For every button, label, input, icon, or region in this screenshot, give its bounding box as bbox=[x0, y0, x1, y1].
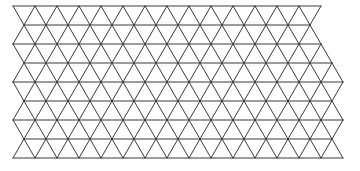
diagonal-line bbox=[200, 25, 211, 44]
diagonal-line bbox=[167, 101, 178, 120]
diagonal-line bbox=[35, 25, 46, 44]
diagonal-line bbox=[255, 101, 266, 120]
diagonal-line bbox=[255, 6, 266, 25]
diagonal-line bbox=[189, 139, 200, 158]
diagonal-line bbox=[57, 120, 68, 139]
diagonal-line bbox=[112, 82, 123, 101]
diagonal-line bbox=[101, 44, 112, 63]
diagonal-line bbox=[233, 82, 244, 101]
diagonal-line bbox=[101, 25, 112, 44]
diagonal-line bbox=[112, 63, 123, 82]
diagonal-line bbox=[233, 120, 244, 139]
diagonal-line bbox=[24, 120, 35, 139]
diagonal-line bbox=[189, 25, 200, 44]
diagonal-line bbox=[211, 101, 222, 120]
diagonal-line bbox=[123, 25, 134, 44]
diagonal-line bbox=[288, 25, 299, 44]
diagonal-line bbox=[288, 6, 299, 25]
diagonal-line bbox=[178, 25, 189, 44]
diagonal-line bbox=[112, 139, 123, 158]
diagonal-line bbox=[68, 25, 79, 44]
diagonal-line bbox=[277, 44, 288, 63]
diagonal-line bbox=[13, 139, 24, 158]
diagonal-line bbox=[90, 25, 101, 44]
diagonal-line bbox=[277, 101, 288, 120]
diagonal-line bbox=[178, 82, 189, 101]
diagonal-line bbox=[321, 44, 332, 63]
diagonal-line bbox=[189, 63, 200, 82]
diagonal-line bbox=[35, 63, 46, 82]
diagonal-line bbox=[145, 25, 156, 44]
diagonal-line bbox=[288, 44, 299, 63]
diagonal-line bbox=[299, 139, 310, 158]
diagonal-line bbox=[145, 63, 156, 82]
diagonal-line bbox=[134, 44, 145, 63]
diagonal-line bbox=[112, 120, 123, 139]
diagonal-line bbox=[332, 101, 343, 120]
diagonal-line bbox=[35, 6, 46, 25]
diagonal-line bbox=[310, 44, 321, 63]
diagonal-line bbox=[211, 6, 222, 25]
diagonal-line bbox=[299, 101, 310, 120]
diagonal-line bbox=[189, 101, 200, 120]
diagonal-line bbox=[244, 120, 255, 139]
diagonal-line bbox=[156, 82, 167, 101]
diagonal-line bbox=[35, 44, 46, 63]
diagonal-line bbox=[200, 101, 211, 120]
diagonal-line bbox=[46, 139, 57, 158]
diagonal-line bbox=[90, 139, 101, 158]
diagonal-line bbox=[266, 139, 277, 158]
diagonal-line bbox=[222, 25, 233, 44]
diagonal-line bbox=[200, 44, 211, 63]
diagonal-line bbox=[46, 44, 57, 63]
diagonal-line bbox=[332, 120, 343, 139]
diagonal-line bbox=[156, 139, 167, 158]
diagonal-line bbox=[310, 101, 321, 120]
diagonal-line bbox=[123, 82, 134, 101]
diagonal-line bbox=[266, 44, 277, 63]
diagonal-line bbox=[222, 6, 233, 25]
diagonal-line bbox=[178, 63, 189, 82]
diagonal-line bbox=[79, 63, 90, 82]
diagonal-line bbox=[178, 139, 189, 158]
diagonal-line bbox=[156, 120, 167, 139]
diagonal-line bbox=[79, 82, 90, 101]
diagonal-line bbox=[134, 120, 145, 139]
diagonal-line bbox=[134, 6, 145, 25]
diagonal-line bbox=[123, 101, 134, 120]
diagonal-line bbox=[266, 25, 277, 44]
diagonal-line bbox=[57, 82, 68, 101]
diagonal-line bbox=[189, 44, 200, 63]
diagonal-line bbox=[332, 63, 343, 82]
diagonal-line bbox=[156, 63, 167, 82]
diagonal-line bbox=[145, 120, 156, 139]
diagonal-line bbox=[13, 44, 24, 63]
diagonal-line bbox=[24, 139, 35, 158]
diagonal-line bbox=[321, 63, 332, 82]
diagonal-line bbox=[57, 44, 68, 63]
diagonal-line bbox=[46, 101, 57, 120]
diagonal-line bbox=[321, 139, 332, 158]
diagonal-line bbox=[90, 82, 101, 101]
diagonal-line bbox=[167, 44, 178, 63]
diagonal-line bbox=[310, 120, 321, 139]
diagonal-line bbox=[101, 6, 112, 25]
diagonal-line bbox=[46, 25, 57, 44]
diagonal-line bbox=[35, 82, 46, 101]
diagonal-line bbox=[57, 101, 68, 120]
diagonal-line bbox=[101, 101, 112, 120]
diagonal-line bbox=[277, 139, 288, 158]
diagonal-line bbox=[178, 101, 189, 120]
diagonal-line bbox=[112, 25, 123, 44]
diagonal-line bbox=[90, 101, 101, 120]
diagonal-line bbox=[24, 82, 35, 101]
diagonal-line bbox=[13, 120, 24, 139]
diagonal-line bbox=[134, 25, 145, 44]
diagonal-line bbox=[189, 6, 200, 25]
diagonal-line bbox=[222, 82, 233, 101]
diagonal-line bbox=[79, 25, 90, 44]
diagonal-line bbox=[255, 139, 266, 158]
diagonal-line bbox=[101, 120, 112, 139]
diagonal-line bbox=[321, 120, 332, 139]
diagonal-line bbox=[167, 6, 178, 25]
